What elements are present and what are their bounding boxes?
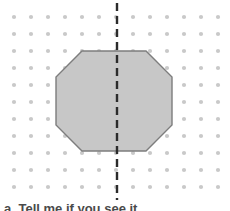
grid-dot	[12, 134, 16, 138]
grid-dot	[12, 32, 16, 36]
grid-dot	[199, 49, 203, 53]
grid-dot	[46, 49, 50, 53]
grid-dot	[80, 15, 84, 19]
grid-dot	[12, 168, 16, 172]
grid-dot	[12, 151, 16, 155]
grid-dot	[12, 66, 16, 70]
grid-dot	[182, 32, 186, 36]
grid-dot	[216, 32, 220, 36]
grid-dot	[46, 66, 50, 70]
grid-dot	[46, 32, 50, 36]
grid-dot	[63, 15, 67, 19]
grid-dot	[199, 32, 203, 36]
grid-dot	[216, 83, 220, 87]
grid-dot	[97, 168, 101, 172]
grid-dot	[165, 134, 169, 138]
grid-dot	[12, 49, 16, 53]
grid-dot	[131, 15, 135, 19]
grid-dot	[29, 134, 33, 138]
grid-dot	[29, 83, 33, 87]
grid-dot	[216, 168, 220, 172]
grid-dot	[165, 32, 169, 36]
grid-dot	[216, 15, 220, 19]
grid-dot	[165, 151, 169, 155]
grid-dot	[63, 49, 67, 53]
grid-dot	[182, 117, 186, 121]
grid-dot	[12, 15, 16, 19]
grid-dot	[148, 185, 152, 189]
grid-dot	[46, 151, 50, 155]
grid-dot	[80, 32, 84, 36]
grid-dot	[46, 117, 50, 121]
grid-dot	[199, 83, 203, 87]
grid-dot	[46, 185, 50, 189]
figure-caption: a. Tell me if you see it.	[4, 202, 141, 211]
grid-dot	[199, 117, 203, 121]
grid-dot	[182, 49, 186, 53]
grid-dot	[148, 49, 152, 53]
grid-dot	[80, 168, 84, 172]
grid-dot	[165, 168, 169, 172]
grid-dot	[114, 168, 118, 172]
grid-dot	[46, 83, 50, 87]
grid-dot	[182, 134, 186, 138]
grid-dot	[216, 134, 220, 138]
grid-dot	[131, 32, 135, 36]
grid-dot	[29, 100, 33, 104]
grid-dot	[12, 100, 16, 104]
grid-dot	[165, 66, 169, 70]
grid-dot	[63, 151, 67, 155]
grid-dot	[199, 151, 203, 155]
grid-dot	[199, 134, 203, 138]
grid-dot	[29, 49, 33, 53]
grid-dot	[182, 15, 186, 19]
grid-dot	[148, 151, 152, 155]
grid-dot	[216, 117, 220, 121]
grid-dot	[46, 15, 50, 19]
grid-dot	[97, 15, 101, 19]
geometry-figure: a. Tell me if you see it.	[0, 0, 230, 211]
grid-dot	[29, 66, 33, 70]
grid-dot	[97, 32, 101, 36]
grid-dot	[148, 15, 152, 19]
grid-dot	[29, 151, 33, 155]
grid-dot	[29, 117, 33, 121]
caption-clip: a. Tell me if you see it.	[0, 202, 230, 211]
grid-dot	[29, 168, 33, 172]
grid-dot	[199, 66, 203, 70]
grid-dot	[148, 168, 152, 172]
grid-dot	[165, 185, 169, 189]
figure-canvas	[0, 0, 230, 211]
grid-dot	[182, 83, 186, 87]
grid-dot	[80, 185, 84, 189]
grid-dot	[216, 151, 220, 155]
grid-dot	[199, 168, 203, 172]
grid-dot	[148, 32, 152, 36]
grid-dot	[199, 100, 203, 104]
grid-dot	[12, 185, 16, 189]
grid-dot	[12, 117, 16, 121]
grid-dot	[216, 185, 220, 189]
grid-dot	[12, 83, 16, 87]
grid-dot	[182, 151, 186, 155]
grid-dot	[182, 66, 186, 70]
grid-dot	[182, 100, 186, 104]
grid-dot	[131, 168, 135, 172]
grid-dot	[216, 66, 220, 70]
grid-dot	[46, 134, 50, 138]
grid-dot	[199, 15, 203, 19]
grid-dot	[199, 185, 203, 189]
grid-dot	[165, 15, 169, 19]
grid-dot	[216, 49, 220, 53]
grid-dot	[63, 32, 67, 36]
grid-dot	[46, 100, 50, 104]
grid-dot	[182, 168, 186, 172]
grid-dot	[182, 185, 186, 189]
grid-dot	[131, 185, 135, 189]
grid-dot	[63, 168, 67, 172]
grid-dot	[165, 49, 169, 53]
octagon-shape	[56, 51, 172, 151]
grid-dot	[29, 32, 33, 36]
grid-dot	[29, 185, 33, 189]
grid-dot	[29, 15, 33, 19]
